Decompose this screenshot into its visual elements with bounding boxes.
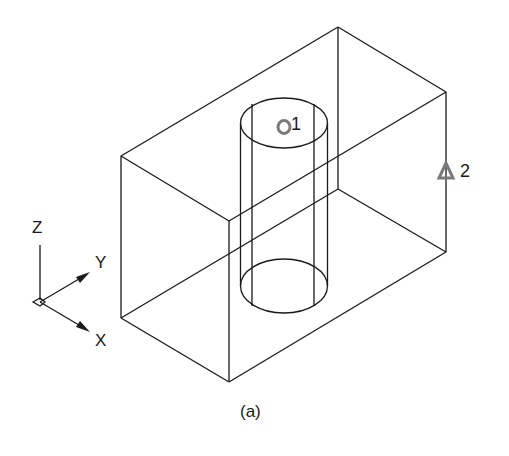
marker-2: 2 [439, 161, 470, 181]
cylinder-hole [241, 98, 328, 313]
figure-caption: (a) [240, 402, 261, 421]
figure-canvas: 1 2 Z Y X (a) [0, 0, 509, 456]
circle-marker-icon [278, 121, 290, 134]
y-arrow-icon [76, 272, 90, 283]
z-axis-label: Z [32, 218, 42, 237]
box-edges [121, 27, 446, 382]
x-arrow-icon [76, 321, 90, 332]
marker-1: 1 [278, 114, 301, 134]
x-axis-label: X [95, 331, 106, 350]
block-wireframe: 1 2 Z Y X (a) [0, 0, 509, 456]
marker-1-label: 1 [291, 114, 301, 134]
origin-icon [33, 298, 45, 306]
ucs-axis-icon: Z Y X [32, 218, 106, 350]
y-axis-label: Y [95, 253, 106, 272]
marker-2-label: 2 [460, 161, 470, 181]
